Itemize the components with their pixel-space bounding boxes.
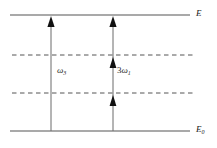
pump-transition-label: 3ω1 xyxy=(117,66,131,76)
upper-level-label-text: E xyxy=(196,8,202,18)
emission-arrowhead-icon xyxy=(47,16,54,27)
pump-arrowhead-bottom-icon xyxy=(110,95,117,106)
pump-arrowhead-middle-icon xyxy=(110,57,117,68)
emission-omega-subscript: 3 xyxy=(63,70,66,76)
energy-level-diagram: E E0 ω3 3ω1 xyxy=(0,0,217,148)
upper-level-label: E xyxy=(196,9,202,18)
pump-arrowhead-top-icon xyxy=(109,16,116,27)
ground-level-label: E0 xyxy=(196,125,205,135)
ground-level-label-subscript: 0 xyxy=(202,129,205,135)
pump-omega-subscript: 1 xyxy=(128,70,131,76)
emission-transition-label: ω3 xyxy=(57,66,66,76)
diagram-canvas xyxy=(0,0,217,148)
